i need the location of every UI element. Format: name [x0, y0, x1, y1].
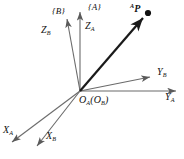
axis-label-y-a-sub: A — [171, 96, 175, 103]
axis-label-y-a-main: Y — [165, 91, 171, 102]
axis-line-z-b — [67, 19, 80, 91]
point-p-superscript: A — [130, 2, 134, 9]
axis-label-z-b-main: Z — [41, 24, 47, 35]
axis-label-y-a: YA — [165, 92, 175, 102]
axis-label-x-b: XB — [46, 131, 56, 141]
axis-label-x-b-sub: B — [52, 135, 56, 142]
axis-label-x-a-sub: A — [9, 129, 13, 136]
axis-label-x-a: XA — [3, 125, 13, 135]
origin-label-paren-close: ) — [105, 94, 108, 105]
axis-label-y-b-main: Y — [157, 66, 163, 77]
frame-label-b: {B} — [52, 7, 65, 16]
point-p-label: AP — [130, 4, 140, 14]
origin-label-sub-b: B — [101, 99, 105, 106]
axis-label-z-b: ZB — [41, 25, 51, 35]
axis-label-z-a-sub: A — [91, 25, 95, 32]
coordinate-frames-diagram: {A} {B} AP ZA ZB YA YB XA XB OA(OB) — [0, 0, 184, 159]
axis-label-z-a-main: Z — [85, 20, 91, 31]
axis-label-y-b-sub: B — [163, 71, 167, 78]
point-p-marker — [145, 10, 151, 16]
axis-label-y-b: YB — [157, 67, 167, 77]
axis-label-z-a: ZA — [85, 21, 95, 31]
origin-label: OA(OB) — [79, 95, 108, 105]
origin-label-sub-a: A — [86, 99, 90, 106]
frame-label-a: {A} — [88, 3, 101, 12]
axis-label-z-b-sub: B — [47, 29, 51, 36]
point-p-name: P — [134, 3, 140, 14]
origin-label-paren-open: (O — [90, 94, 101, 105]
